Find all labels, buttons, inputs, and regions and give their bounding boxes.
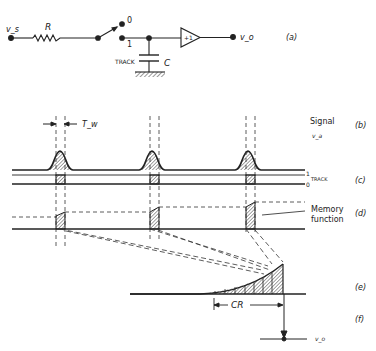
memory-label-line1: Memory: [311, 205, 344, 214]
output-label-f: v_o: [315, 335, 326, 343]
panel-a-label: (a): [286, 33, 297, 42]
cr-label: CR: [231, 300, 244, 310]
track-label-waveform: TRACK: [310, 176, 328, 182]
buffer-label: +1: [184, 34, 193, 41]
panel-b-label: (b): [355, 121, 366, 130]
panel-e-label: (e): [355, 283, 366, 292]
pulse-width-label: T_w: [82, 120, 98, 129]
resistor-icon: [33, 35, 63, 41]
track-one-label: 1: [306, 170, 310, 177]
projection-lines: [60, 229, 283, 274]
ground-icon: [135, 72, 165, 77]
track-label: TRACK: [114, 58, 136, 65]
sample-hold-diagram: v_s R 0 1 TRACK C +1 v_o (a) T_w Signal …: [0, 0, 376, 351]
panel-c-label: (c): [355, 176, 366, 185]
output-label: v_o: [240, 33, 254, 42]
weighting-function: [130, 264, 306, 294]
pulse-width-marker: [43, 122, 77, 126]
resistor-label: R: [45, 22, 51, 32]
panel-f-label: (f): [355, 315, 364, 324]
switch-pos0-label: 0: [127, 16, 132, 25]
track-waveform: [12, 175, 305, 184]
capacitor-label: C: [164, 58, 171, 68]
input-label: v_s: [6, 25, 19, 34]
track-zero-label: 0: [306, 181, 310, 188]
signal-sub-label: v_a: [312, 132, 323, 140]
memory-label-line2: function: [311, 215, 344, 224]
switch-contact-0: [120, 22, 125, 27]
cr-dimension: [214, 298, 283, 310]
memory-pointer: [262, 211, 305, 215]
switch-pos1-label: 1: [127, 40, 132, 49]
circuit-schematic: [9, 22, 236, 77]
signal-label: Signal: [310, 117, 335, 126]
panel-d-label: (d): [355, 209, 366, 218]
memory-waveform: [12, 202, 305, 229]
output-projection: [260, 294, 307, 341]
output-terminal: [231, 35, 236, 40]
